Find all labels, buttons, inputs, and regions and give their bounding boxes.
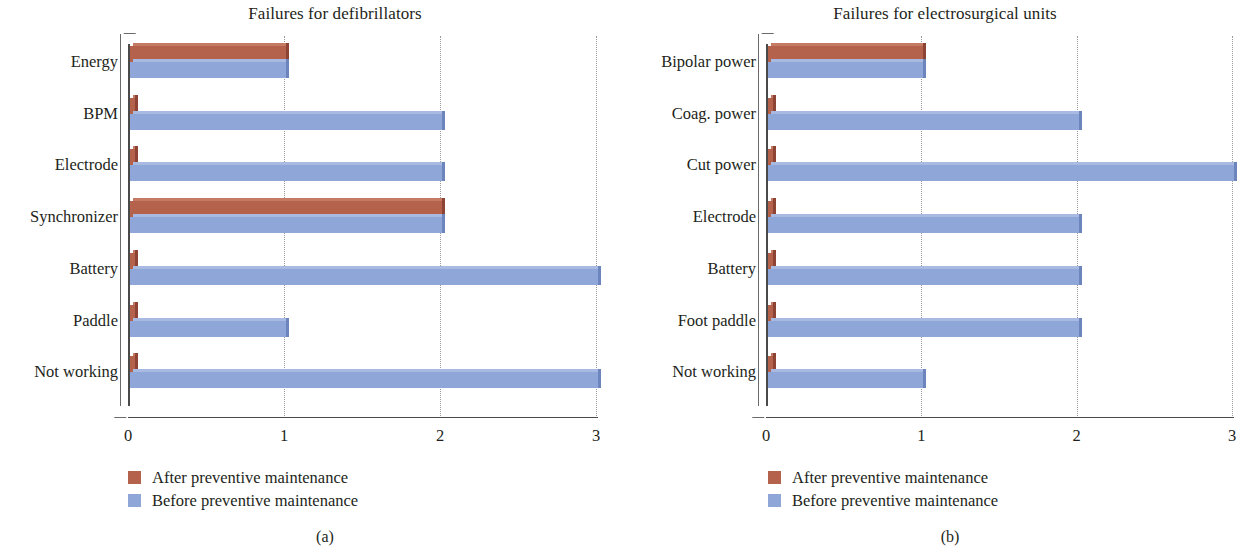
bar-before-preventive-maintenance	[768, 217, 1079, 233]
bar-side-face	[923, 369, 926, 388]
bar-row: Battery	[128, 251, 596, 303]
legend-a: After preventive maintenance Before prev…	[128, 466, 358, 512]
bar-face	[768, 62, 923, 78]
bar-top-face	[771, 318, 1079, 321]
y-axis-back-edge	[758, 34, 759, 406]
plot-area-b: Bipolar powerCoag. powerCut powerElectro…	[766, 44, 1232, 406]
figure-container: Failures for defibrillators EnergyBPMEle…	[0, 0, 1241, 557]
bar-rows-b: Bipolar powerCoag. powerCut powerElectro…	[766, 44, 1232, 406]
y-axis-category-label: Electrode	[693, 207, 756, 227]
bar-before-preventive-maintenance	[768, 114, 1079, 130]
bar-side-face	[1079, 111, 1082, 130]
bar-row: Bipolar power	[766, 44, 1232, 96]
bar-top-face	[771, 369, 923, 372]
x-tick-labels-a: 0123	[128, 426, 596, 450]
bar-top-face	[133, 59, 286, 62]
bar-top-face	[133, 266, 598, 269]
bar-top-face	[771, 111, 1079, 114]
bar-top-face	[771, 214, 1079, 217]
bar-side-face	[442, 214, 445, 233]
bar-face	[130, 62, 286, 78]
x-tick-label: 2	[436, 426, 444, 446]
bar-top-face	[133, 43, 286, 46]
y-axis-category-label: BPM	[83, 104, 118, 124]
bar-face	[768, 372, 923, 388]
chart-title-a: Failures for defibrillators	[0, 4, 620, 24]
bar-row: Electrode	[128, 147, 596, 199]
bar-before-preventive-maintenance	[768, 269, 1079, 285]
y-axis-category-label: Not working	[34, 362, 118, 382]
y-axis-category-label: Electrode	[55, 155, 118, 175]
y-axis-category-label: Bipolar power	[661, 52, 756, 72]
legend-b: After preventive maintenance Before prev…	[768, 466, 998, 512]
bar-row: Paddle	[128, 303, 596, 355]
x-tick-label: 1	[280, 426, 288, 446]
bar-side-face	[598, 266, 601, 285]
bar-row: Not working	[128, 354, 596, 406]
y-axis-category-label: Battery	[707, 259, 756, 279]
bar-rows-a: EnergyBPMElectrodeSynchronizerBatteryPad…	[128, 44, 596, 406]
bar-before-preventive-maintenance	[768, 321, 1079, 337]
bar-side-face	[442, 111, 445, 130]
legend-swatch-after-icon	[768, 471, 781, 484]
bar-row: Electrode	[766, 199, 1232, 251]
legend-swatch-after-icon	[128, 471, 141, 484]
bar-before-preventive-maintenance	[130, 62, 286, 78]
bar-before-preventive-maintenance	[768, 62, 923, 78]
legend-swatch-before-icon	[768, 494, 781, 507]
bar-face	[130, 269, 598, 285]
bar-top-face	[133, 198, 442, 201]
bar-row: BPM	[128, 96, 596, 148]
x-tick-labels-b: 0123	[766, 426, 1232, 450]
x-tick-label: 3	[1228, 426, 1236, 446]
bar-row: Foot paddle	[766, 303, 1232, 355]
bar-side-face	[1079, 318, 1082, 337]
legend-label-after: After preventive maintenance	[152, 468, 348, 488]
bar-row: Coag. power	[766, 96, 1232, 148]
bar-side-face	[286, 318, 289, 337]
bar-side-face	[598, 369, 601, 388]
bar-face	[130, 114, 442, 130]
bar-before-preventive-maintenance	[130, 372, 598, 388]
x-tick-label: 3	[592, 426, 600, 446]
x-tick-label: 1	[917, 426, 925, 446]
bar-face	[768, 269, 1079, 285]
bar-side-face	[1234, 162, 1237, 181]
y-axis-category-label: Paddle	[73, 311, 118, 331]
legend-swatch-before-icon	[128, 494, 141, 507]
y-axis-category-label: Energy	[71, 52, 118, 72]
bar-side-face	[1079, 266, 1082, 285]
panel-caption-a: (a)	[0, 528, 620, 546]
y-axis-category-label: Cut power	[687, 155, 756, 175]
bar-before-preventive-maintenance	[768, 165, 1234, 181]
bar-top-face	[133, 214, 442, 217]
bar-face	[768, 321, 1079, 337]
bar-top-face	[771, 43, 923, 46]
bar-row: Synchronizer	[128, 199, 596, 251]
bar-before-preventive-maintenance	[130, 269, 598, 285]
bar-side-face	[442, 162, 445, 181]
legend-label-before: Before preventive maintenance	[792, 491, 998, 511]
bar-top-face	[133, 162, 442, 165]
gridline	[596, 36, 597, 416]
bar-face	[130, 217, 442, 233]
bar-before-preventive-maintenance	[130, 217, 442, 233]
bar-face	[130, 165, 442, 181]
bar-row: Energy	[128, 44, 596, 96]
bar-side-face	[1079, 214, 1082, 233]
chart-panel-a: Failures for defibrillators EnergyBPMEle…	[0, 0, 620, 557]
bar-before-preventive-maintenance	[130, 321, 286, 337]
y-axis-category-label: Foot paddle	[678, 311, 756, 331]
x-axis-line	[766, 417, 1234, 418]
legend-label-after: After preventive maintenance	[792, 468, 988, 488]
chart-panel-b: Failures for electrosurgical units Bipol…	[620, 0, 1240, 557]
bar-top-face	[133, 369, 598, 372]
x-axis-line	[128, 417, 598, 418]
chart-title-b: Failures for electrosurgical units	[620, 4, 1240, 24]
y-axis-category-label: Battery	[69, 259, 118, 279]
legend-label-before: Before preventive maintenance	[152, 491, 358, 511]
y-axis-category-label: Coag. power	[672, 104, 756, 124]
bar-row: Cut power	[766, 147, 1232, 199]
legend-item-after: After preventive maintenance	[768, 466, 998, 489]
bar-face	[130, 321, 286, 337]
